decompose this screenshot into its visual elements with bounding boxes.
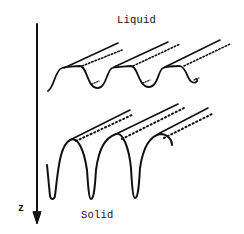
diagram-canvas: Liquid Solid z [0,0,244,234]
z-axis-label: z [18,204,24,214]
liquid-label: Liquid [117,15,156,26]
liquid-interface-profile [48,40,230,91]
solid-label: Solid [81,210,114,221]
z-axis-arrow-icon [33,24,41,224]
solid-interface-profile [47,104,212,199]
cellular-interface-diagram [0,0,244,234]
